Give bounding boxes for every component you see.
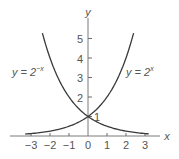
x-tick-label: 2 (123, 139, 129, 151)
x-tick-label: 0 (85, 139, 91, 151)
right-curve-label: y = 2x (125, 65, 154, 78)
x-tick-label: −3 (25, 139, 38, 151)
intersection-label: 1 (94, 111, 100, 123)
y-tick-labels: 2 3 4 5 (77, 33, 83, 104)
y-tick-label: 2 (77, 92, 83, 104)
x-tick-labels: −3 −2 −1 0 1 2 3 (25, 139, 148, 151)
right-curve-label-base: y = 2 (125, 66, 150, 78)
left-curve-label-exponent: −x (36, 65, 44, 72)
left-curve-label: y = 2−x (11, 65, 44, 78)
y-tick-label: 5 (77, 33, 83, 45)
x-tick-label: 1 (104, 139, 110, 151)
left-curve-label-base: y = 2 (11, 66, 36, 78)
y-ticks (88, 39, 92, 117)
right-curve-label-exponent: x (149, 65, 154, 72)
x-tick-label: 3 (142, 139, 148, 151)
x-axis-label: x (163, 130, 170, 142)
exponential-chart: −3 −2 −1 0 1 2 3 2 3 4 5 y x 1 y = 2−x y… (0, 0, 179, 159)
x-tick-label: −1 (63, 139, 76, 151)
x-tick-label: −2 (44, 139, 57, 151)
y-tick-label: 4 (77, 53, 83, 65)
y-tick-label: 3 (77, 72, 83, 84)
y-axis-label: y (84, 6, 92, 18)
